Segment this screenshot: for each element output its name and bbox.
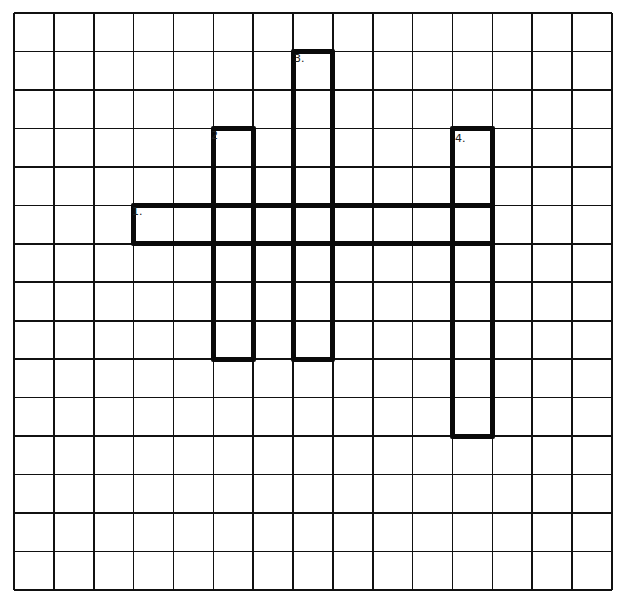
grid-column-line: [173, 13, 175, 590]
clue-label-2: 2: [211, 130, 218, 141]
grid-column-line: [611, 13, 613, 590]
clue-label-3: 3.: [294, 53, 305, 64]
grid-row-line: [14, 474, 612, 476]
grid-row-line: [14, 589, 612, 591]
crossword-grid: [14, 13, 612, 590]
grid-row-line: [14, 12, 612, 14]
grid-column-line: [412, 13, 414, 590]
grid-row-line: [14, 512, 612, 514]
grid-column-line: [571, 13, 573, 590]
clue-label-4: 4.: [455, 133, 466, 144]
entry-4-down[interactable]: [450, 126, 495, 439]
grid-row-line: [14, 551, 612, 553]
grid-column-line: [372, 13, 374, 590]
grid-column-line: [13, 13, 15, 590]
entry-2-down[interactable]: [211, 126, 256, 362]
grid-row-line: [14, 435, 612, 437]
grid-column-line: [531, 13, 533, 590]
entry-3-down[interactable]: [291, 49, 336, 362]
grid-row-line: [14, 397, 612, 399]
grid-column-line: [93, 13, 95, 590]
clue-label-1: 1.: [132, 206, 143, 217]
grid-column-line: [133, 13, 135, 590]
grid-column-line: [53, 13, 55, 590]
